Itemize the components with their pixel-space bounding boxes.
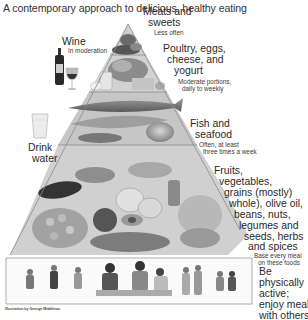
tier-meats-note: Less often (154, 29, 184, 37)
tier-fish-label-line2: seafood (195, 129, 232, 140)
wine-label: Wine (62, 36, 86, 47)
drink-water-label-line1: Drink (28, 142, 52, 153)
tier-plant-label-line1: Fruits, (214, 165, 243, 176)
tier-activity-illustration (6, 258, 252, 304)
tier-activity-label-line2: physically (259, 277, 304, 288)
tier-poultry-label-line3: yogurt (174, 65, 203, 76)
water-glass-illustration (32, 114, 48, 138)
tier-poultry-note-line2: daily to weekly (182, 85, 224, 93)
tier-poultry-label-line2: cheese, and (167, 54, 224, 65)
tier-activity-label-line1: Be (259, 266, 272, 277)
tier-plant-label-line5: beans, nuts, (234, 209, 291, 220)
tier-plant-label-line8: and spices (248, 241, 298, 252)
tier-plant-label-line4: whole), olive oil, (229, 198, 303, 209)
tier-plant-label-line3: grains (mostly) (224, 187, 292, 198)
tier-activity-label-line5: with others (259, 310, 308, 320)
tier-meats-sweets-illustration (110, 24, 146, 55)
tier-fish-label-line1: Fish and (190, 118, 230, 129)
tier-plant-label-line2: vegetables, (219, 176, 272, 187)
drink-water-label-line2: water (32, 153, 57, 164)
tier-activity-label-line4: enjoy meals (259, 299, 308, 310)
illustration-credit: Illustration by George Middleton (5, 307, 60, 311)
tier-plant-label-line6: legumes and (239, 220, 299, 231)
tier-activity-label-line3: active; (259, 288, 289, 299)
wine-note: In moderation (68, 47, 107, 55)
tier-poultry-label-line1: Poultry, eggs, (163, 43, 226, 54)
tier-meats-label-line2: sweets (148, 17, 180, 28)
tier-fish-note-line2: three times a week (203, 148, 257, 156)
tier-meats-label-line1: Meats and (143, 6, 192, 17)
tier-fish-illustration (58, 92, 197, 145)
